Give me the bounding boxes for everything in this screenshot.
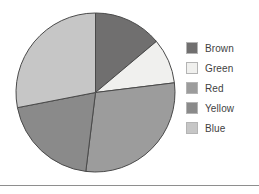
legend-item-blue[interactable]: Blue (186, 118, 256, 138)
pie-slices (16, 13, 175, 172)
bottom-divider (0, 185, 259, 186)
legend-label-blue: Blue (205, 123, 225, 134)
pie-plot-area (10, 6, 182, 181)
legend-swatch-red (186, 82, 198, 94)
legend-swatch-green (186, 62, 198, 74)
legend-item-yellow[interactable]: Yellow (186, 98, 256, 118)
legend-label-green: Green (205, 63, 233, 74)
legend-swatch-yellow (186, 102, 198, 114)
legend-label-yellow: Yellow (205, 103, 234, 114)
chart-legend: Brown Green Red Yellow Blue (186, 38, 256, 138)
legend-item-brown[interactable]: Brown (186, 38, 256, 58)
pie-slice-red[interactable] (86, 83, 175, 172)
legend-label-brown: Brown (205, 43, 234, 54)
pie-slice-blue[interactable] (16, 13, 96, 108)
pie-svg (10, 6, 182, 181)
legend-swatch-brown (186, 42, 198, 54)
legend-swatch-blue (186, 122, 198, 134)
legend-item-green[interactable]: Green (186, 58, 256, 78)
pie-chart-figure: Brown Green Red Yellow Blue (0, 0, 259, 194)
legend-label-red: Red (205, 83, 224, 94)
legend-item-red[interactable]: Red (186, 78, 256, 98)
